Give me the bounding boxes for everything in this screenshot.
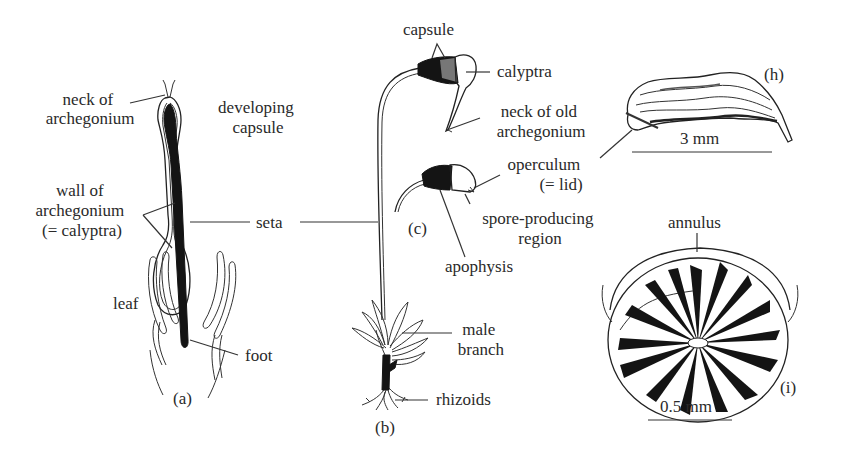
panel-i-peristome: annulus 0.5 mm (i) xyxy=(602,213,798,422)
moss-sporophyte-diagram: neck of archegonium developing capsule w… xyxy=(0,0,843,466)
panel-b-leafy-shoot xyxy=(352,300,428,410)
label-spore-producing-region: spore-producing region xyxy=(482,209,598,248)
scale-bar-i-label: 0.5 mm xyxy=(660,397,712,416)
label-capsule: capsule xyxy=(403,20,454,39)
panel-label-c: (c) xyxy=(408,219,427,238)
label-neck-of-archegonium: neck of archegonium xyxy=(46,90,135,128)
scale-bar-h-label: 3 mm xyxy=(680,129,719,148)
label-developing-capsule: developing capsule xyxy=(218,98,298,137)
label-annulus: annulus xyxy=(668,213,721,232)
panel-label-b: (b) xyxy=(375,418,395,437)
panel-h-capsule-side: 3 mm (h) xyxy=(600,65,792,158)
panel-a-developing-sporophyte: neck of archegonium developing capsule w… xyxy=(36,80,298,408)
label-rhizoids: rhizoids xyxy=(436,390,491,409)
label-neck-of-old-archegonium: neck of old archegonium xyxy=(497,102,586,141)
label-male-branch: male branch xyxy=(458,320,505,359)
label-wall-of-archegonium: wall of archegonium (= calyptra) xyxy=(36,181,129,240)
label-apophysis: apophysis xyxy=(445,257,513,276)
panel-label-h: (h) xyxy=(764,65,784,84)
label-calyptra: calyptra xyxy=(497,62,552,81)
panel-label-a: (a) xyxy=(173,389,192,408)
label-operculum: operculum (= lid) xyxy=(508,155,585,194)
label-foot: foot xyxy=(245,346,273,365)
panel-c-capsule: operculum (= lid) spore-producing region… xyxy=(395,155,598,276)
label-seta: seta xyxy=(256,213,283,232)
panel-a-leaves xyxy=(148,251,235,398)
label-leaf: leaf xyxy=(113,294,139,313)
panel-label-i: (i) xyxy=(780,378,796,397)
